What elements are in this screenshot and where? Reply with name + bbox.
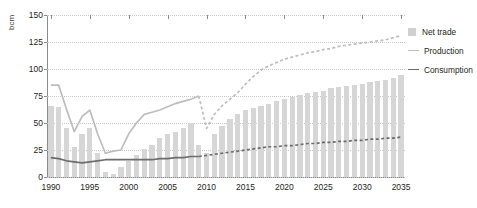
bar (118, 167, 123, 177)
bar (391, 78, 396, 177)
plot-area: 0255075100125150 19901995200020052010201… (47, 15, 405, 177)
bar (188, 123, 193, 177)
bar (305, 93, 310, 177)
y-tick-label: 125 (29, 37, 43, 47)
x-tick-label: 2015 (236, 182, 255, 192)
bar (243, 110, 248, 177)
bar (103, 172, 108, 177)
bar (313, 92, 318, 177)
x-tick-label: 2020 (275, 182, 294, 192)
bar (360, 84, 365, 177)
bar (64, 128, 69, 177)
bar (87, 128, 92, 177)
legend-label-consumption: Consumption (424, 65, 473, 75)
bar (235, 114, 240, 177)
x-tick-mark (129, 15, 130, 19)
production-swatch-icon (408, 50, 419, 51)
bar (149, 145, 154, 177)
x-tick-mark (51, 15, 52, 19)
gridline (47, 69, 405, 70)
y-tick-mark (44, 69, 48, 70)
x-tick-label: 2025 (314, 182, 333, 192)
x-tick-label: 2030 (353, 182, 372, 192)
x-tick-label: 2005 (158, 182, 177, 192)
bar (126, 161, 131, 177)
x-tick-label: 2000 (119, 182, 138, 192)
chart-container: bcm 0255075100125150 1990199520002005201… (0, 0, 477, 208)
gridline (47, 15, 405, 16)
bar (336, 87, 341, 177)
x-tick-label: 2010 (197, 182, 216, 192)
bar (56, 107, 61, 177)
y-tick-mark (44, 123, 48, 124)
bar (79, 134, 84, 177)
bar (367, 82, 372, 177)
y-tick-label: 50 (34, 118, 43, 128)
gridline (47, 177, 405, 178)
bar (204, 153, 209, 177)
x-tick-mark (284, 15, 285, 19)
x-tick-mark (323, 15, 324, 19)
bar (383, 80, 388, 177)
bar (95, 153, 100, 177)
x-tick-label: 1995 (80, 182, 99, 192)
bar (344, 86, 349, 177)
bar (398, 75, 403, 177)
x-tick-mark (90, 15, 91, 19)
bar (321, 91, 326, 177)
y-tick-mark (44, 96, 48, 97)
bar (165, 134, 170, 177)
bar (72, 147, 77, 177)
y-tick-label: 0 (38, 172, 43, 182)
bar (274, 101, 279, 177)
bar (328, 88, 333, 177)
gridline (47, 42, 405, 43)
y-tick-label: 25 (34, 145, 43, 155)
legend-label-net-trade: Net trade (422, 27, 456, 37)
bar (212, 134, 217, 177)
consumption-swatch-icon (408, 69, 419, 70)
legend-label-production: Production (424, 46, 464, 56)
bar (258, 106, 263, 177)
bar (219, 126, 224, 177)
bar (375, 81, 380, 177)
bar (142, 149, 147, 177)
x-tick-label: 1990 (41, 182, 60, 192)
legend-item-production[interactable]: Production (408, 41, 476, 60)
bar (173, 132, 178, 177)
bar (352, 85, 357, 177)
y-axis-label: bcm (7, 15, 16, 30)
x-tick-label: 2035 (392, 182, 411, 192)
bar (181, 128, 186, 177)
y-tick-label: 75 (34, 91, 43, 101)
bar (157, 138, 162, 177)
legend: Net trade Production Consumption (408, 22, 476, 79)
bar (111, 174, 116, 177)
y-tick-mark (44, 15, 48, 16)
y-tick-mark (44, 150, 48, 151)
x-tick-mark (401, 15, 402, 19)
x-tick-mark (245, 15, 246, 19)
y-tick-label: 100 (29, 64, 43, 74)
bar (227, 119, 232, 177)
x-tick-mark (168, 15, 169, 19)
bar (266, 104, 271, 177)
bar (251, 108, 256, 177)
bar (282, 99, 287, 177)
bar (290, 97, 295, 177)
y-tick-mark (44, 177, 48, 178)
bar (196, 145, 201, 177)
legend-item-consumption[interactable]: Consumption (408, 60, 476, 79)
x-tick-mark (207, 15, 208, 19)
legend-item-net-trade[interactable]: Net trade (408, 22, 476, 41)
bar (297, 95, 302, 177)
y-tick-mark (44, 42, 48, 43)
y-tick-label: 150 (29, 10, 43, 20)
x-tick-mark (362, 15, 363, 19)
net-trade-swatch-icon (408, 28, 416, 36)
bar (134, 155, 139, 177)
bar (48, 106, 53, 177)
